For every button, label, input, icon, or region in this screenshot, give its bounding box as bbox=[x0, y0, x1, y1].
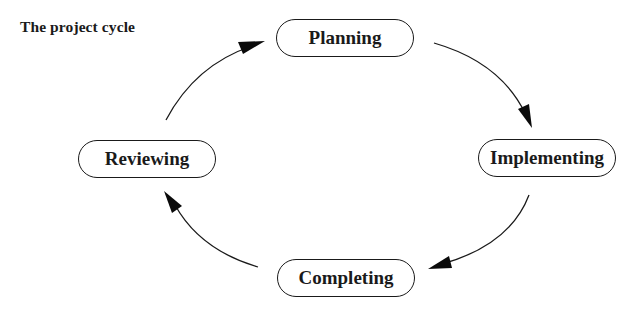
node-label: Planning bbox=[309, 27, 382, 49]
arrow-reviewing-to-planning bbox=[166, 41, 265, 120]
node-label: Completing bbox=[299, 267, 394, 289]
node-reviewing: Reviewing bbox=[78, 140, 216, 178]
node-label: Reviewing bbox=[105, 148, 189, 170]
node-label: Implementing bbox=[490, 147, 604, 169]
node-completing: Completing bbox=[277, 259, 415, 297]
node-implementing: Implementing bbox=[478, 139, 616, 177]
arrow-completing-to-reviewing bbox=[164, 191, 258, 267]
node-planning: Planning bbox=[276, 19, 414, 57]
arrow-planning-to-implementing bbox=[434, 43, 532, 128]
arrow-implementing-to-completing bbox=[428, 195, 529, 269]
